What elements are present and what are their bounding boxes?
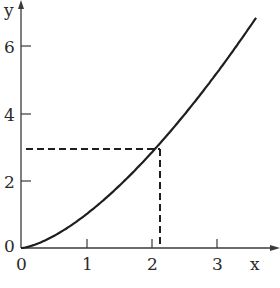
- y-ticks: [21, 46, 31, 181]
- x-tick-label-3: 3: [212, 254, 223, 274]
- y-axis-label: y: [3, 0, 14, 20]
- x-axis-label: x: [250, 254, 260, 274]
- line-chart: 6 4 2 0 y 0 1 2 3 x: [0, 0, 280, 288]
- data-curve: [21, 18, 256, 248]
- y-tick-label-2: 2: [4, 172, 15, 192]
- x-tick-label-2: 2: [147, 254, 158, 274]
- x-ticks: [87, 239, 217, 248]
- x-tick-label-0: 0: [16, 254, 27, 274]
- y-tick-label-0: 0: [4, 236, 15, 256]
- x-axis-arrow-icon: [270, 245, 280, 251]
- y-axis-arrow-icon: [18, 0, 24, 9]
- y-tick-label-6: 6: [4, 37, 15, 57]
- y-tick-label-4: 4: [4, 105, 15, 125]
- x-tick-label-1: 1: [82, 254, 93, 274]
